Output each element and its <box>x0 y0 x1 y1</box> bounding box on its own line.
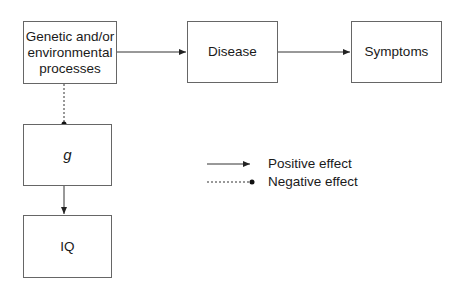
legend-positive-label: Positive effect <box>268 156 352 171</box>
node-iq: IQ <box>23 215 112 278</box>
legend-negative-dot <box>250 180 255 185</box>
node-disease: Disease <box>187 21 278 83</box>
node-g: g <box>23 124 112 186</box>
legend-negative-label: Negative effect <box>268 174 358 189</box>
node-symptoms: Symptoms <box>351 21 442 83</box>
node-causes: Genetic and/or environmental processes <box>23 21 117 84</box>
